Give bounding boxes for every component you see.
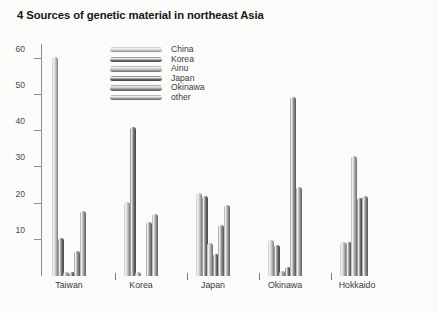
legend-item-ainu: Ainu <box>110 64 216 74</box>
legend-swatch <box>110 85 162 90</box>
bar <box>80 211 86 276</box>
bar <box>135 272 141 276</box>
figure: 4 Sources of genetic material in northea… <box>0 0 438 313</box>
y-tick-label: 30 <box>15 152 25 162</box>
y-tick-label: 10 <box>15 225 25 235</box>
y-tick-label: 60 <box>15 44 25 54</box>
y-tick-label: 20 <box>15 189 25 199</box>
x-axis-group-label: Korea <box>129 280 152 290</box>
legend-swatch <box>110 47 162 52</box>
page-title: 4 Sources of genetic material in northea… <box>17 9 264 21</box>
group-separator-tick <box>187 273 188 280</box>
y-tick-label: 40 <box>15 116 25 126</box>
x-axis-group-label: Okinawa <box>268 280 302 290</box>
legend-item-china: China <box>110 45 216 55</box>
y-axis <box>41 44 42 276</box>
y-tick: 20 <box>34 203 41 204</box>
y-tick: 50 <box>34 94 41 95</box>
group-separator-tick <box>115 273 116 280</box>
bar <box>130 127 136 276</box>
legend-item-okinawa: Okinawa <box>110 83 216 93</box>
legend-swatch <box>110 57 162 62</box>
legend-item-korea: Korea <box>110 55 216 65</box>
legend-label: other <box>171 93 191 103</box>
plot-area: 102030405060 TaiwanKoreaJapanOkinawaHokk… <box>41 44 429 276</box>
y-tick: 40 <box>34 130 41 131</box>
x-axis-group-label: Japan <box>201 280 225 290</box>
y-tick-label: 50 <box>15 80 25 90</box>
bar <box>362 196 368 276</box>
legend-item-other: other <box>110 93 216 103</box>
y-tick: 10 <box>34 239 41 240</box>
bar <box>152 214 158 276</box>
group-separator-tick <box>259 273 260 280</box>
bar <box>224 205 230 276</box>
y-tick: 30 <box>34 166 41 167</box>
legend-swatch <box>110 66 162 71</box>
bar <box>58 238 64 276</box>
bar <box>296 187 302 276</box>
y-tick: 60 <box>34 58 41 59</box>
x-axis-group-label: Taiwan <box>55 280 82 290</box>
legend: ChinaKoreaAinuJapanOkinawaother <box>110 45 216 103</box>
legend-swatch <box>110 76 162 81</box>
group-separator-tick <box>331 273 332 280</box>
legend-swatch <box>110 95 162 100</box>
x-axis-group-label: Hokkaido <box>339 280 376 290</box>
